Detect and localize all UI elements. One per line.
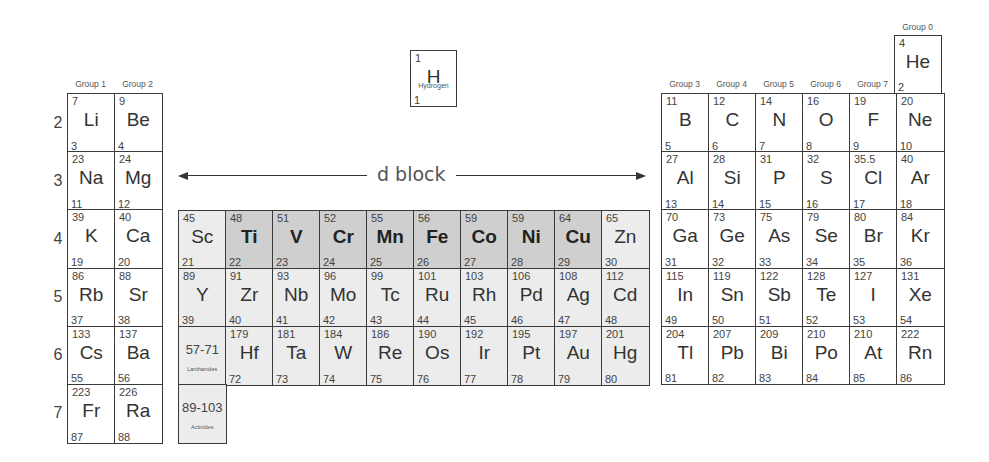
element-ra[interactable]: 226Ra88: [114, 384, 163, 444]
element-au[interactable]: 197Au79: [554, 326, 603, 386]
element-te[interactable]: 128Te52: [802, 268, 851, 328]
element-k[interactable]: 39K19: [67, 209, 116, 269]
element-os[interactable]: 190Os76: [413, 326, 462, 386]
element-po[interactable]: 210Po84: [802, 326, 851, 386]
element-ni[interactable]: 59Ni28: [507, 210, 556, 270]
element-ru[interactable]: 101Ru44: [413, 268, 462, 328]
element-mg[interactable]: 24Mg12: [114, 151, 163, 211]
element-f[interactable]: 19F9: [849, 93, 898, 153]
element-xe[interactable]: 131Xe54: [896, 268, 945, 328]
element-li[interactable]: 7Li3: [67, 93, 116, 153]
atomic-number: 35: [853, 256, 865, 268]
element-y[interactable]: 89Y39: [178, 268, 227, 328]
group-label-6: Group 6: [802, 79, 849, 89]
element-ne[interactable]: 20Ne10: [896, 93, 945, 153]
element-hydrogen[interactable]: 1 H Hydrogen 1: [410, 50, 457, 107]
element-al[interactable]: 27Al13: [661, 151, 710, 211]
element-fr[interactable]: 223Fr87: [67, 384, 116, 444]
element-ag[interactable]: 108Ag47: [554, 268, 603, 328]
element-si[interactable]: 28Si14: [708, 151, 757, 211]
atomic-number: 8: [806, 140, 812, 152]
element-bi[interactable]: 209Bi83: [755, 326, 804, 386]
element-cu[interactable]: 64Cu29: [554, 210, 603, 270]
element-pb[interactable]: 207Pb82: [708, 326, 757, 386]
element-rb[interactable]: 86Rb37: [67, 268, 116, 328]
element-symbol: Ca: [115, 225, 162, 247]
mass-number: 93: [277, 270, 289, 282]
element-hf[interactable]: 179Hf72: [225, 326, 274, 386]
element-re[interactable]: 186Re75: [366, 326, 415, 386]
element-symbol: Co: [461, 226, 508, 248]
mass-number: 210: [854, 328, 872, 340]
element-pt[interactable]: 195Pt78: [507, 326, 556, 386]
element-sn[interactable]: 119Sn50: [708, 268, 757, 328]
element-c[interactable]: 12C6: [708, 93, 757, 153]
mass-number: 186: [371, 328, 389, 340]
element-fe[interactable]: 56Fe26: [413, 210, 462, 270]
element-cs[interactable]: 133Cs55: [67, 326, 116, 386]
element-co[interactable]: 59Co27: [460, 210, 509, 270]
element-o[interactable]: 16O8: [802, 93, 851, 153]
element-v[interactable]: 51V23: [272, 210, 321, 270]
element-zr[interactable]: 91Zr40: [225, 268, 274, 328]
element-in[interactable]: 115In49: [661, 268, 710, 328]
mass-number: 39: [72, 211, 84, 223]
element-pd[interactable]: 106Pd46: [507, 268, 556, 328]
element-symbol: Ra: [115, 400, 162, 422]
atomic-number: 29: [558, 256, 570, 268]
element-nb[interactable]: 93Nb41: [272, 268, 321, 328]
element-w[interactable]: 184W74: [319, 326, 368, 386]
atomic-number: 20: [118, 256, 130, 268]
element-na[interactable]: 23Na11: [67, 151, 116, 211]
element-ir[interactable]: 192Ir77: [460, 326, 509, 386]
element-sr[interactable]: 88Sr38: [114, 268, 163, 328]
element-br[interactable]: 80Br35: [849, 209, 898, 269]
element-ba[interactable]: 137Ba56: [114, 326, 163, 386]
element-cl[interactable]: 35.5Cl17: [849, 151, 898, 211]
element-be[interactable]: 9Be4: [114, 93, 163, 153]
element-ar[interactable]: 40Ar18: [896, 151, 945, 211]
period-label-6: 6: [51, 346, 65, 364]
atomic-number: 14: [712, 198, 724, 210]
element-n[interactable]: 14N7: [755, 93, 804, 153]
element-cr[interactable]: 52Cr24: [319, 210, 368, 270]
element-p[interactable]: 31P15: [755, 151, 804, 211]
element-ti[interactable]: 48Ti22: [225, 210, 274, 270]
element-range-lanthanides[interactable]: 57-71Lanthanides: [178, 326, 227, 386]
mass-number: 80: [854, 211, 866, 223]
element-range-actinides[interactable]: 89-103Actinides: [178, 384, 227, 444]
element-kr[interactable]: 84Kr36: [896, 209, 945, 269]
element-at[interactable]: 210At85: [849, 326, 898, 386]
element-ga[interactable]: 70Ga31: [661, 209, 710, 269]
element-mn[interactable]: 55Mn25: [366, 210, 415, 270]
element-symbol: Os: [414, 342, 461, 364]
element-i[interactable]: 127I53: [849, 268, 898, 328]
element-as[interactable]: 75As33: [755, 209, 804, 269]
mass-number: 12: [713, 95, 725, 107]
element-symbol: Sn: [709, 284, 756, 306]
element-tl[interactable]: 204Tl81: [661, 326, 710, 386]
element-zn[interactable]: 65Zn30: [601, 210, 650, 270]
mass-number: 40: [901, 153, 913, 165]
element-rn[interactable]: 222Rn86: [896, 326, 945, 386]
element-symbol: Sc: [179, 226, 226, 248]
mass-number: 40: [119, 211, 131, 223]
element-cd[interactable]: 112Cd48: [601, 268, 650, 328]
element-ca[interactable]: 40Ca20: [114, 209, 163, 269]
mass-number: 75: [760, 211, 772, 223]
element-helium[interactable]: 4 He 2: [894, 35, 942, 94]
element-hg[interactable]: 201Hg80: [601, 326, 650, 386]
element-ta[interactable]: 181Ta73: [272, 326, 321, 386]
element-se[interactable]: 79Se34: [802, 209, 851, 269]
atomic-number: 48: [605, 314, 617, 326]
element-mo[interactable]: 96Mo42: [319, 268, 368, 328]
atomic-number: 25: [370, 256, 382, 268]
element-symbol: Sb: [756, 284, 803, 306]
element-s[interactable]: 32S16: [802, 151, 851, 211]
element-ge[interactable]: 73Ge32: [708, 209, 757, 269]
element-b[interactable]: 11B5: [661, 93, 710, 153]
element-sb[interactable]: 122Sb51: [755, 268, 804, 328]
element-rh[interactable]: 103Rh45: [460, 268, 509, 328]
element-sc[interactable]: 45Sc21: [178, 210, 227, 270]
element-tc[interactable]: 99Tc43: [366, 268, 415, 328]
